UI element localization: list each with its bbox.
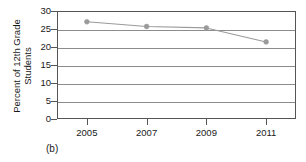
series-markers — [84, 19, 268, 44]
y-axis-tick-label: 5 — [27, 96, 51, 106]
data-point-marker — [204, 26, 209, 31]
x-axis-tick-label: 2007 — [124, 127, 170, 138]
data-point-marker — [144, 24, 149, 29]
top-edge-artifact-left: ~ — [2, 0, 8, 4]
x-axis-tick-mark — [87, 119, 88, 125]
y-axis-tick-label: 20 — [27, 42, 51, 52]
data-series-layer — [57, 11, 296, 119]
data-point-marker — [84, 19, 89, 24]
y-axis-tick-label: 10 — [27, 78, 51, 88]
x-axis-tick-mark — [147, 119, 148, 125]
x-axis-tick-label: 2005 — [64, 127, 110, 138]
x-axis-tick-label: 2009 — [183, 127, 229, 138]
y-axis-tick-label: 0 — [27, 114, 51, 124]
y-axis-title-line-1: Percent of 12th Grade — [11, 7, 22, 125]
x-axis-tick-mark — [206, 119, 207, 125]
x-axis-tick-mark — [266, 119, 267, 125]
data-point-marker — [264, 40, 269, 45]
y-axis-tick-label: 25 — [27, 24, 51, 34]
y-axis-tick-labels: 051015202530 — [27, 0, 51, 162]
x-axis-tick-label: 2011 — [243, 127, 289, 138]
y-axis-tick-label: 30 — [27, 6, 51, 16]
series-line — [87, 22, 266, 42]
figure-panel: ~ ~ Percent of 12th Grade Students 05101… — [0, 0, 306, 162]
figure-caption: (b) — [46, 143, 58, 155]
y-axis-tick-label: 15 — [27, 60, 51, 70]
